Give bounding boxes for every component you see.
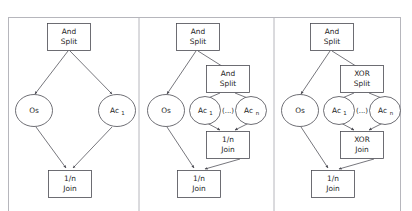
node-b-ac1-base: Ac <box>198 106 207 115</box>
panel-c: And Split Os XOR Split Ac 1 (...) <box>282 24 401 198</box>
edge-a-split-to-os <box>35 51 68 94</box>
edge-b-split1-to-os <box>167 51 196 94</box>
edge-c-os-to-join-outer <box>301 127 328 168</box>
node-c-xor-split-line1: XOR <box>354 69 370 78</box>
node-b-join-inner[interactable]: 1/n Join <box>207 132 250 159</box>
node-c-acn-base: Ac <box>378 106 387 115</box>
edge-c-split-to-os <box>301 51 330 94</box>
node-c-xor-split-line2: Split <box>354 79 370 88</box>
node-b-and-split-1-line1: And <box>191 27 206 36</box>
workflow-pattern-diagram: And Split Os Ac 1 1/n Join <box>0 0 412 211</box>
node-c-xor-join[interactable]: XOR Join <box>341 132 384 159</box>
panel-b: And Split Os And Split Ac 1 (...) <box>148 24 267 198</box>
node-a-ac1[interactable]: Ac 1 <box>99 95 136 127</box>
node-b-and-split-1[interactable]: And Split <box>177 24 220 51</box>
node-c-ellipsis: (...) <box>356 107 368 115</box>
node-c-acn-subscript: n <box>390 110 393 116</box>
node-c-xor-join-line2: Join <box>354 145 369 154</box>
node-a-and-split[interactable]: And Split <box>48 24 91 51</box>
node-a-os[interactable]: Os <box>16 95 53 127</box>
node-c-ac1[interactable]: Ac 1 <box>324 97 355 125</box>
node-b-ac1[interactable]: Ac 1 <box>190 97 221 125</box>
node-b-and-split-2-line1: And <box>221 69 236 78</box>
node-b-ellipsis: (...) <box>222 107 234 115</box>
node-b-join-inner-line2: Join <box>220 145 235 154</box>
edge-b-join-inner-to-join-outer <box>205 159 240 169</box>
node-b-and-split-2-line2: Split <box>220 79 236 88</box>
node-c-join-outer-line1: 1/n <box>327 174 339 183</box>
node-c-xor-split[interactable]: XOR Split <box>341 66 384 93</box>
node-b-acn-subscript: n <box>256 110 259 116</box>
edge-a-split-to-ac1 <box>70 51 112 94</box>
node-b-ac1-subscript: 1 <box>209 110 212 116</box>
node-c-os-label: Os <box>295 106 305 115</box>
node-c-xor-join-line1: XOR <box>354 135 370 144</box>
node-b-os-label: Os <box>161 106 171 115</box>
node-b-join-outer[interactable]: 1/n Join <box>178 171 221 198</box>
edge-a-os-to-join <box>36 127 66 168</box>
figure-root: And Split Os Ac 1 1/n Join <box>0 0 412 211</box>
node-a-and-split-line1: And <box>62 27 77 36</box>
node-c-os[interactable]: Os <box>282 95 319 127</box>
edge-a-ac1-to-join <box>73 127 112 168</box>
node-b-and-split-1-line2: Split <box>190 37 206 46</box>
node-c-acn[interactable]: Ac n <box>370 97 401 125</box>
node-a-join-line1: 1/n <box>64 174 76 183</box>
edge-c-xor-join-to-join-outer <box>339 159 374 169</box>
node-a-join-line2: Join <box>62 184 77 193</box>
node-b-join-outer-line2: Join <box>191 184 206 193</box>
node-a-join[interactable]: 1/n Join <box>49 171 92 198</box>
node-c-join-outer[interactable]: 1/n Join <box>312 171 355 198</box>
node-c-and-split-line2: Split <box>324 37 340 46</box>
node-c-and-split[interactable]: And Split <box>311 24 354 51</box>
node-b-join-inner-line1: 1/n <box>222 135 234 144</box>
node-b-join-outer-line1: 1/n <box>193 174 205 183</box>
node-a-ac1-subscript: 1 <box>121 110 124 116</box>
node-b-os[interactable]: Os <box>148 95 185 127</box>
panel-a: And Split Os Ac 1 1/n Join <box>16 24 136 198</box>
node-a-ac1-base: Ac <box>110 106 119 115</box>
node-c-ac1-base: Ac <box>332 106 341 115</box>
node-c-and-split-line1: And <box>325 27 340 36</box>
node-a-os-label: Os <box>29 106 39 115</box>
node-b-and-split-2[interactable]: And Split <box>207 66 250 93</box>
edge-b-os-to-join-outer <box>167 127 194 168</box>
node-b-acn[interactable]: Ac n <box>236 97 267 125</box>
node-b-acn-base: Ac <box>244 106 253 115</box>
node-c-join-outer-line2: Join <box>325 184 340 193</box>
node-c-ac1-subscript: 1 <box>343 110 346 116</box>
node-a-and-split-line2: Split <box>61 37 77 46</box>
